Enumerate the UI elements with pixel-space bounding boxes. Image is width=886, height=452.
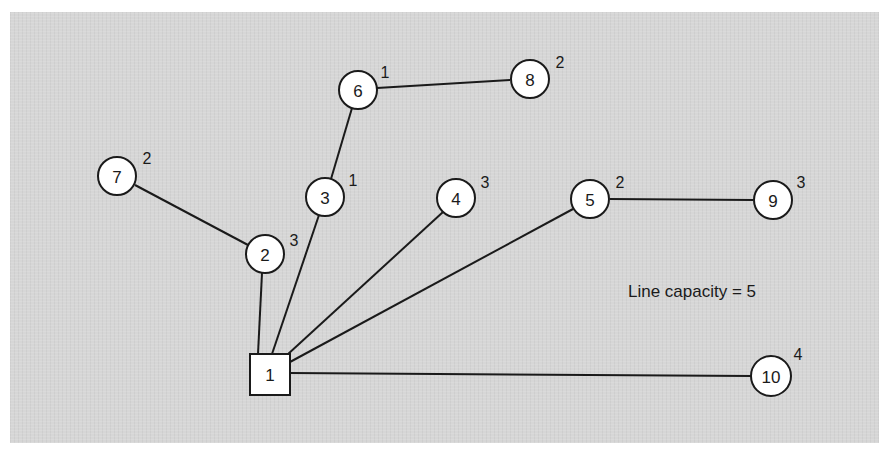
edge-1-5 <box>290 209 573 362</box>
node-2: 2 3 <box>246 232 299 274</box>
node-label: 4 <box>451 190 460 209</box>
node-label: 8 <box>525 71 534 90</box>
node-10: 10 4 <box>751 346 803 397</box>
node-1-root: 1 <box>250 354 290 395</box>
edge-2-7 <box>135 185 248 245</box>
node-weight: 3 <box>481 174 490 191</box>
node-7: 7 2 <box>98 150 152 196</box>
node-9: 9 3 <box>754 174 806 220</box>
node-weight: 3 <box>797 174 806 191</box>
node-label: 5 <box>585 191 594 210</box>
node-weight: 4 <box>794 346 803 363</box>
node-label: 1 <box>265 366 274 385</box>
edge-1-2 <box>258 273 262 354</box>
edge-6-8 <box>377 80 510 88</box>
node-weight: 3 <box>290 232 299 249</box>
node-5: 5 2 <box>571 174 625 219</box>
network-tree-diagram: 1 2 3 3 1 4 3 5 2 6 1 7 2 8 2 9 3 <box>0 0 886 452</box>
node-weight: 2 <box>143 150 152 167</box>
node-6: 6 1 <box>339 64 390 110</box>
edge-1-4 <box>287 212 443 355</box>
node-weight: 2 <box>556 54 565 71</box>
node-label: 6 <box>353 82 362 101</box>
node-weight: 2 <box>616 174 625 191</box>
node-weight: 1 <box>381 64 390 81</box>
node-8: 8 2 <box>511 54 565 99</box>
node-label: 9 <box>768 192 777 211</box>
edge-1-10 <box>290 373 751 376</box>
edges <box>135 80 753 376</box>
node-4: 4 3 <box>437 174 490 218</box>
edge-3-6 <box>331 108 352 179</box>
node-label: 7 <box>112 168 121 187</box>
node-weight: 1 <box>349 172 358 189</box>
line-capacity-annotation: Line capacity = 5 <box>628 282 756 301</box>
node-label: 3 <box>320 189 329 208</box>
node-label: 2 <box>260 246 269 265</box>
node-label: 10 <box>762 368 781 387</box>
edge-5-9 <box>610 199 753 200</box>
